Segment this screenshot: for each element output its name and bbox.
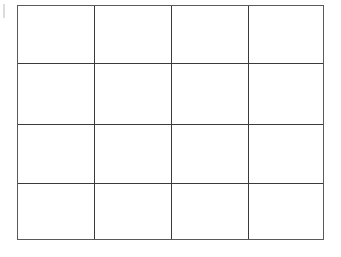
grid-cell-r2-c2	[95, 64, 172, 125]
grid-cell-r2-c4	[249, 64, 323, 125]
cell-text	[95, 184, 171, 188]
grid-cell-r4-c4	[249, 184, 323, 239]
cell-text	[172, 6, 248, 10]
grid-cell-r3-c4	[249, 125, 323, 184]
empty-table-grid	[17, 5, 324, 240]
cell-text	[18, 64, 94, 68]
grid-cell-r2-c3	[172, 64, 249, 125]
grid-cell-r1-c4	[249, 6, 323, 64]
canvas	[0, 0, 341, 257]
cell-text	[172, 184, 248, 188]
cell-text	[172, 125, 248, 129]
cell-text	[249, 64, 323, 68]
cell-text	[249, 6, 323, 10]
grid-cell-r1-c1	[18, 6, 95, 64]
edge-artifact	[3, 4, 5, 18]
grid-cell-r1-c3	[172, 6, 249, 64]
cell-text	[18, 184, 94, 188]
grid-cell-r2-c1	[18, 64, 95, 125]
grid-cell-r3-c2	[95, 125, 172, 184]
cell-text	[172, 64, 248, 68]
grid-cell-r3-c1	[18, 125, 95, 184]
cell-text	[18, 6, 94, 10]
cell-text	[95, 64, 171, 68]
grid-cell-r1-c2	[95, 6, 172, 64]
cell-text	[18, 125, 94, 129]
cell-text	[95, 6, 171, 10]
cell-text	[249, 125, 323, 129]
grid-cell-r4-c2	[95, 184, 172, 239]
grid-cell-r4-c3	[172, 184, 249, 239]
cell-text	[95, 125, 171, 129]
grid-cell-r4-c1	[18, 184, 95, 239]
cell-text	[249, 184, 323, 188]
grid-cell-r3-c3	[172, 125, 249, 184]
